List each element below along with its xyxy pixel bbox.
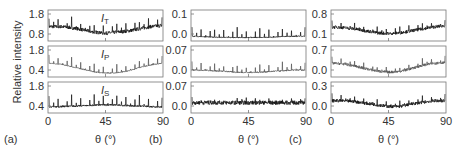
series-label-i-s: IS [101,84,109,98]
x-tick-label: 0 [328,115,334,127]
x-tick-label: 0 [45,115,51,127]
y-tick-label: 0.07 [166,80,187,92]
data-trace [332,93,445,108]
x-tick-label: 45 [382,115,394,127]
panel-label: (c) [289,133,302,145]
y-tick-label: 0.0 [172,100,187,112]
y-tick-label: 0.07 [166,44,187,56]
series-label-i-t: IT [101,12,109,26]
subplot-i-s: 0.070.0 [166,80,306,113]
y-tick-label: 1.8 [29,8,44,20]
panels-group: 1.80.8IT1.80.4IP1.80.4IS04590θ (°)(a)0.1… [4,8,452,145]
y-tick-label: 0.7 [312,44,327,56]
subplot-i-t: 0.80.1 [312,8,446,41]
y-tick-label: 0.0 [312,64,327,76]
x-tick-label: 45 [99,115,111,127]
x-axis-label: θ (°) [95,133,116,145]
plot-frame [331,82,446,113]
x-axis-label: θ (°) [378,133,399,145]
y-tick-label: 0.1 [312,28,327,40]
data-trace [192,61,305,73]
subplot-i-p: 1.80.4IP [29,44,163,77]
x-tick-label: 90 [157,115,169,127]
subplot-i-t: 1.80.8IT [29,8,163,41]
panel-label: (b) [149,133,162,145]
y-tick-label: 0.0 [172,64,187,76]
series-label-sub: T [104,17,109,26]
y-tick-label: 0.0 [172,28,187,40]
subplot-i-p: 0.070.0 [166,44,306,77]
y-tick-label: 0.3 [312,80,327,92]
data-trace [192,27,305,38]
y-tick-label: 1.8 [29,44,44,56]
x-tick-label: 0 [188,115,194,127]
subplot-i-s: 1.80.4IS [29,80,163,113]
y-tick-label: 0.0 [312,100,327,112]
y-tick-label: 0.8 [29,28,44,40]
plot-frame [191,82,306,113]
series-label-sub: P [104,53,109,62]
data-trace [332,56,445,74]
y-tick-label: 0.1 [172,8,187,20]
subplot-i-s: 0.30.0 [312,80,446,113]
panel-label: (a) [4,133,17,145]
panel-a: 1.80.8IT1.80.4IP1.80.4IS04590θ (°)(a) [4,8,169,145]
x-tick-label: 90 [300,115,312,127]
panel-c: 0.80.10.70.00.30.004590θ (°)(c) [289,8,452,145]
series-label-sub: S [104,89,109,98]
data-trace [332,20,445,35]
subplot-i-p: 0.70.0 [312,44,446,77]
panel-b: 0.10.00.070.00.070.004590θ (°)(b) [149,8,312,145]
subplot-i-t: 0.10.0 [172,8,306,41]
y-tick-label: 1.8 [29,80,44,92]
y-tick-label: 0.8 [312,8,327,20]
y-tick-label: 0.4 [29,64,44,76]
plot-frame [331,10,446,41]
y-axis-label: Relative intensity [11,20,23,104]
data-trace [192,97,305,105]
x-tick-label: 45 [242,115,254,127]
y-tick-label: 0.4 [29,100,44,112]
x-tick-label: 90 [440,115,452,127]
figure-canvas: Relative intensity 1.80.8IT1.80.4IP1.80.… [0,0,466,150]
series-label-i-p: IP [101,48,109,62]
x-axis-label: θ (°) [238,133,259,145]
